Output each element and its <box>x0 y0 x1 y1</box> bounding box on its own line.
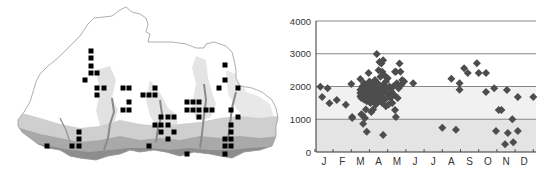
occurrence-square <box>223 152 228 157</box>
scatter-plot: 01000200030004000 JFMAMJJASOND <box>280 0 555 176</box>
occurrence-square <box>121 86 126 91</box>
occurrence-square <box>121 108 126 113</box>
month-label: J <box>322 156 327 167</box>
occurrence-square <box>166 115 171 120</box>
x-axis: JFMAMJJASOND <box>315 149 536 167</box>
occurrence-square <box>166 137 171 142</box>
occurrence-square <box>191 108 196 113</box>
map-canvas <box>0 0 280 176</box>
elevation-band <box>316 87 536 120</box>
occurrence-square <box>127 108 132 113</box>
occurrence-square <box>210 108 215 113</box>
month-label: A <box>448 156 455 167</box>
month-label: A <box>375 156 382 167</box>
elevation-band <box>316 119 536 152</box>
occurrence-square <box>127 86 132 91</box>
occurrence-square <box>127 100 132 105</box>
data-point-diamond <box>373 50 381 58</box>
occurrence-square <box>95 71 100 76</box>
data-point-diamond <box>482 69 490 77</box>
data-point-diamond <box>396 68 404 76</box>
occurrence-square <box>77 144 82 149</box>
occurrence-square <box>197 108 202 113</box>
occurrence-square <box>229 123 234 128</box>
data-point-diamond <box>396 60 404 68</box>
occurrence-square <box>229 108 234 113</box>
occurrence-square <box>77 130 82 135</box>
occurrence-square <box>185 100 190 105</box>
occurrence-square <box>147 144 152 149</box>
month-label: M <box>393 156 401 167</box>
occurrence-square <box>89 49 94 54</box>
occurrence-square <box>172 130 177 135</box>
data-point-diamond <box>475 69 483 77</box>
occurrence-square <box>197 115 202 120</box>
y-axis: 01000200030004000 <box>290 16 316 158</box>
data-point-diamond <box>365 69 373 77</box>
month-label: J <box>431 156 436 167</box>
occurrence-square <box>159 115 164 120</box>
y-tick-label: 3000 <box>290 48 311 59</box>
data-point-diamond <box>447 75 455 83</box>
data-point-diamond <box>473 59 481 67</box>
occurrence-square <box>153 86 158 91</box>
month-label: D <box>521 156 528 167</box>
occurrence-square <box>141 93 146 98</box>
occurrence-square <box>102 86 107 91</box>
month-label: F <box>339 156 345 167</box>
y-tick-label: 4000 <box>290 16 311 27</box>
y-tick-label: 2000 <box>290 81 311 92</box>
occurrence-square <box>89 64 94 69</box>
occurrence-square <box>159 123 164 128</box>
occurrence-square <box>70 144 75 149</box>
occurrence-square <box>95 93 100 98</box>
occurrence-square <box>77 137 82 142</box>
data-point-diamond <box>409 79 417 87</box>
occurrence-square <box>153 123 158 128</box>
occurrence-square <box>217 86 222 91</box>
occurrence-square <box>185 108 190 113</box>
occurrence-square <box>159 130 164 135</box>
occurrence-square <box>223 137 228 142</box>
occurrence-square <box>204 108 209 113</box>
occurrence-square <box>185 152 190 157</box>
occurrence-square <box>95 86 100 91</box>
occurrence-square <box>147 93 152 98</box>
month-label: N <box>502 156 509 167</box>
month-label: S <box>466 156 473 167</box>
elevation-by-month-chart: 01000200030004000 JFMAMJJASOND <box>280 0 555 176</box>
occurrence-square <box>229 137 234 142</box>
occurrence-square <box>229 130 234 135</box>
month-label: J <box>413 156 418 167</box>
occurrence-square <box>166 123 171 128</box>
occurrence-square <box>236 115 241 120</box>
occurrence-square <box>89 56 94 61</box>
occurrence-square <box>197 100 202 105</box>
occurrence-square <box>229 144 234 149</box>
month-label: M <box>356 156 364 167</box>
occurrence-square <box>223 63 228 68</box>
month-label: O <box>484 156 492 167</box>
occurrence-square <box>89 71 94 76</box>
y-tick-label: 1000 <box>290 114 311 125</box>
occurrence-square <box>223 78 228 83</box>
occurrence-square <box>172 115 177 120</box>
occurrence-square <box>83 78 88 83</box>
occurrence-square <box>153 93 158 98</box>
distribution-map <box>0 0 280 176</box>
occurrence-square <box>45 144 50 149</box>
occurrence-square <box>236 86 241 91</box>
occurrence-square <box>223 144 228 149</box>
y-tick-label: 0 <box>306 147 311 158</box>
occurrence-square <box>191 100 196 105</box>
